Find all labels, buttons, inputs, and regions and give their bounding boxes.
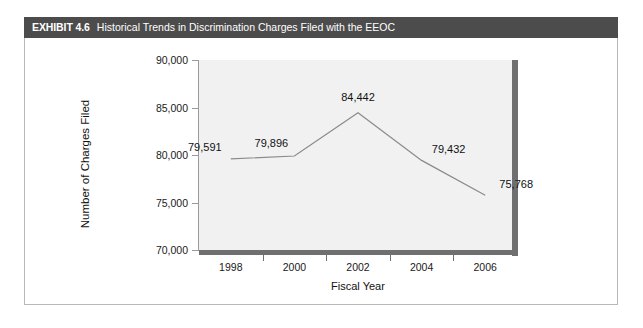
data-point-label: 84,442 — [341, 91, 375, 102]
exhibit-header-bar: EXHIBIT 4.6 Historical Trends in Discrim… — [24, 17, 618, 38]
series-line — [24, 38, 618, 305]
data-point-label: 75,768 — [499, 179, 533, 190]
data-point-label: 79,432 — [432, 144, 466, 155]
exhibit-number: EXHIBIT 4.6 — [32, 22, 90, 33]
data-point-label: 79,896 — [255, 137, 289, 148]
chart-figure: 70,00075,00080,00085,00090,000 Number of… — [24, 38, 618, 305]
data-point-label: 79,591 — [188, 141, 222, 152]
exhibit-title: Historical Trends in Discrimination Char… — [97, 22, 395, 33]
